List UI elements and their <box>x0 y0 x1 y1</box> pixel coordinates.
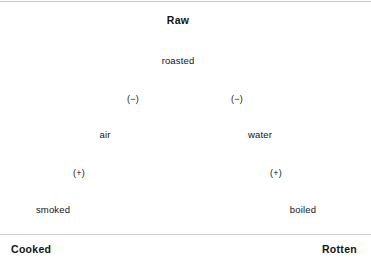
sign-marker-lower-right: (+) <box>270 169 282 178</box>
vertex-label-raw: Raw <box>167 15 190 26</box>
sign-marker-upper-right: (−) <box>231 95 243 104</box>
culinary-triangle-diagram: Raw roasted (−) (−) air water (+) (+) sm… <box>0 0 371 266</box>
vertex-label-cooked: Cooked <box>11 244 51 255</box>
process-label-boiled: boiled <box>290 205 316 215</box>
sign-marker-upper-left: (−) <box>127 95 139 104</box>
process-label-smoked: smoked <box>36 205 70 215</box>
process-label-roasted: roasted <box>162 56 195 66</box>
bottom-divider-rule <box>0 234 371 235</box>
top-divider-rule <box>0 1 371 2</box>
process-label-water: water <box>248 130 272 140</box>
sign-marker-lower-left: (+) <box>73 169 85 178</box>
process-label-air: air <box>99 130 110 140</box>
vertex-label-rotten: Rotten <box>322 244 357 255</box>
